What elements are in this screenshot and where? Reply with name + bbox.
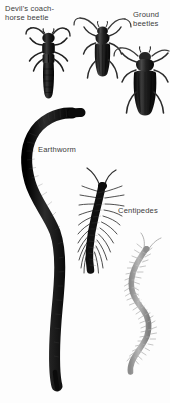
label-ground-beetles: Ground beetles	[133, 10, 159, 28]
centipede-dark-photo	[78, 168, 124, 273]
label-centipedes: Centipedes	[118, 206, 158, 215]
devils-coach-horse-beetle-photo	[26, 28, 70, 99]
specimen-illustration	[0, 0, 170, 403]
label-devils-coach-horse-beetle: Devil's coach- horse beetle	[5, 4, 54, 22]
centipede-grey-photo	[125, 233, 162, 372]
ground-beetle-right-photo	[114, 47, 169, 116]
label-earthworm: Earthworm	[38, 145, 76, 154]
specimen-plate: Devil's coach- horse beetle Ground beetl…	[0, 0, 170, 403]
